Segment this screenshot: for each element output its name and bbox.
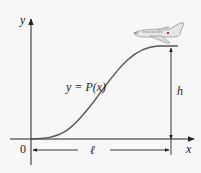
curve-label: y = P(x): [65, 80, 106, 94]
airplane-icon: [134, 23, 184, 43]
x-axis-label: x: [185, 142, 192, 156]
y-axis-label: y: [19, 13, 26, 27]
height-label: h: [177, 84, 183, 98]
length-label: ℓ: [90, 143, 95, 157]
landing-path-diagram: y x 0 y = P(x) h ℓ: [0, 0, 201, 173]
origin-label: 0: [20, 142, 26, 156]
